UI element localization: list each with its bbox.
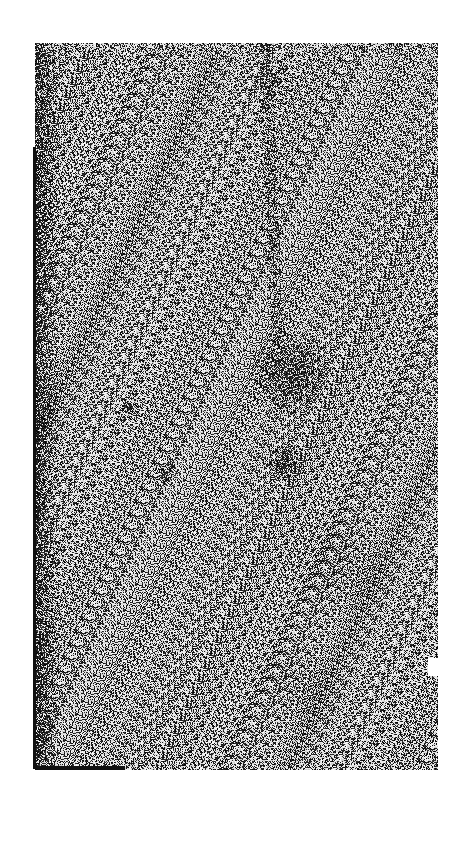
- bottom-edge-line: [35, 766, 125, 770]
- left-edge-line: [33, 147, 36, 769]
- noise-texture: [35, 43, 438, 770]
- page: [0, 0, 451, 862]
- right-edge-notch: [428, 658, 440, 676]
- scanned-page-texture: [35, 43, 438, 770]
